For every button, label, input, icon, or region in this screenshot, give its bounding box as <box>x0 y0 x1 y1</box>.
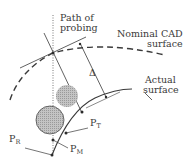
probe-tip-ball <box>36 106 64 134</box>
delta-bottom-marker <box>105 96 107 98</box>
pr-label-sub: R <box>15 138 20 146</box>
path-of-probing-label: Path of probing <box>60 13 98 33</box>
delta-top-marker <box>79 43 81 45</box>
delta-label: Δ <box>89 68 96 78</box>
pt-label: PT <box>90 118 101 129</box>
nominal-label-line2: surface <box>117 39 183 49</box>
actual-label-line2: surface <box>143 85 179 95</box>
probe-tip-compensated <box>56 85 78 107</box>
path-label-line2: probing <box>60 23 98 33</box>
pt-leader <box>66 128 88 133</box>
pr-label: PR <box>9 134 20 145</box>
nominal-point-marker <box>52 52 55 55</box>
pr-leader <box>25 148 52 155</box>
nominal-cad-surface-label: Nominal CAD surface <box>117 29 183 49</box>
pt-label-sub: T <box>96 122 100 130</box>
actual-surface-label: Actual surface <box>145 75 179 95</box>
pm-label-sub: M <box>76 148 83 156</box>
pm-label: PM <box>70 144 83 155</box>
contact-point-marker <box>81 111 84 114</box>
nominal-cad-surface-curve <box>10 47 165 100</box>
